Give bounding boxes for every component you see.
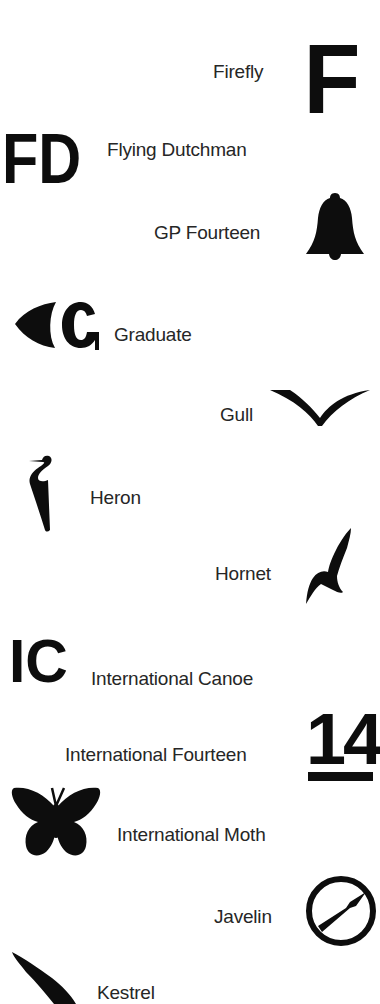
circle-javelin-icon: [304, 874, 378, 948]
firefly-symbol: F: [303, 30, 360, 128]
fourteen-underline: [308, 772, 373, 781]
label-graduate: Graduate: [114, 324, 192, 346]
label-international-fourteen: International Fourteen: [65, 744, 247, 766]
label-kestrel: Kestrel: [97, 982, 155, 1004]
label-international-moth: International Moth: [117, 824, 266, 846]
kestrel-wing-icon: [10, 950, 80, 1004]
label-firefly: Firefly: [213, 61, 263, 83]
bird-silhouette-icon: [303, 526, 353, 608]
label-heron: Heron: [90, 487, 141, 509]
label-international-canoe: International Canoe: [91, 668, 253, 690]
international-fourteen-symbol: 14: [306, 703, 380, 775]
arrowhead-C-symbol: [13, 294, 103, 358]
label-gull: Gull: [220, 404, 253, 426]
heron-icon: [26, 452, 62, 534]
label-javelin: Javelin: [214, 906, 272, 928]
label-gp-fourteen: GP Fourteen: [154, 222, 260, 244]
label-hornet: Hornet: [215, 563, 271, 585]
bell-icon: [303, 190, 367, 268]
international-canoe-symbol: IC: [9, 630, 68, 692]
gull-wings-icon: [270, 388, 372, 428]
label-flying-dutchman: Flying Dutchman: [107, 139, 247, 161]
butterfly-icon: [8, 784, 104, 860]
flying-dutchman-symbol: FD: [2, 124, 81, 194]
